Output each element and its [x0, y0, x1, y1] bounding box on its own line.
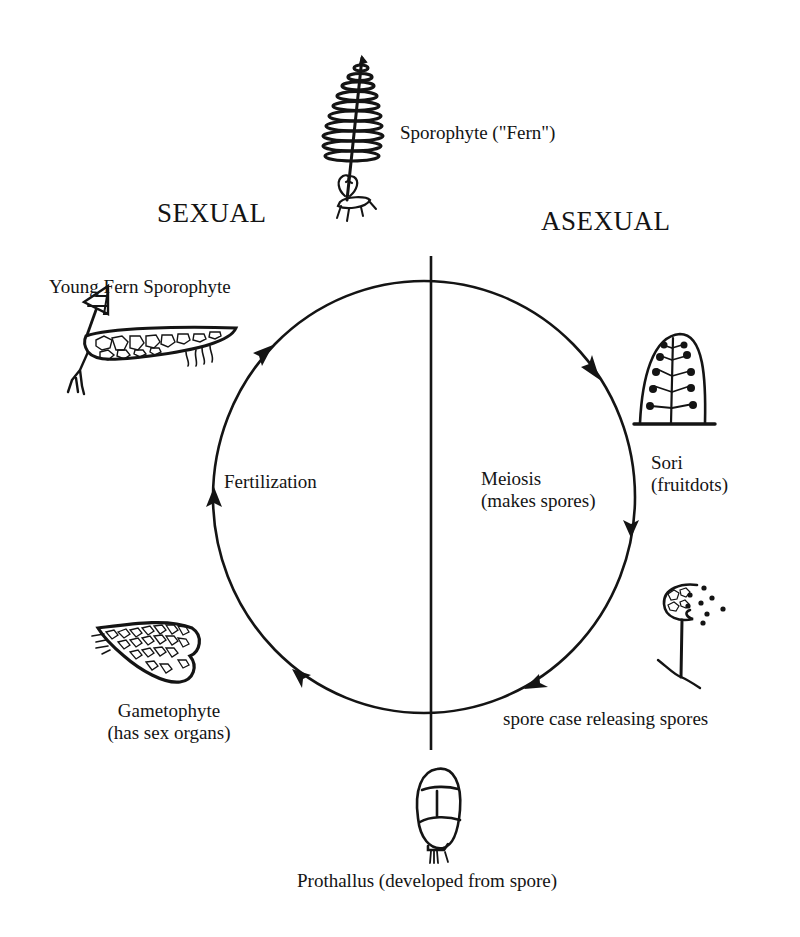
arrow-icon	[581, 355, 600, 380]
arrow-icon	[623, 520, 639, 538]
arrow-icon	[253, 345, 273, 366]
sexual-heading: SEXUAL	[157, 198, 267, 229]
asexual-heading: ASEXUAL	[541, 206, 671, 237]
prothallus-icon	[417, 769, 460, 863]
sporophyte-label: Sporophyte ("Fern")	[400, 122, 555, 144]
gametophyte-label: Gametophyte (has sex organs)	[84, 700, 254, 744]
young-sporophyte-icon	[68, 286, 236, 394]
spore-case-icon	[658, 585, 726, 688]
cycle-arrows	[206, 345, 639, 689]
fern-sporophyte-icon	[323, 57, 383, 221]
arrow-icon	[524, 674, 548, 689]
fertilization-label: Fertilization	[224, 471, 317, 493]
meiosis-label: Meiosis (makes spores)	[481, 468, 596, 512]
sori-frond-icon	[634, 334, 715, 424]
gametophyte-icon	[92, 623, 199, 683]
prothallus-label: Prothallus (developed from spore)	[297, 870, 557, 892]
sori-label: Sori (fruitdots)	[651, 452, 728, 496]
spore-case-label: spore case releasing spores	[503, 708, 708, 730]
young-sporophyte-label: Young Fern Sporophyte	[49, 276, 231, 298]
